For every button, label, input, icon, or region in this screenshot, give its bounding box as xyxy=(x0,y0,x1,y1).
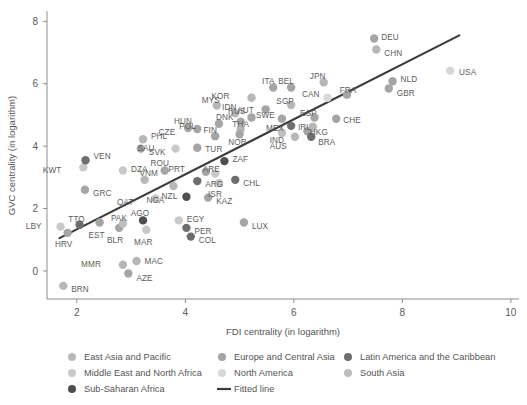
point-label-kwt: KWT xyxy=(43,166,62,175)
data-point-mac xyxy=(132,257,140,265)
data-point-arg xyxy=(193,177,201,185)
data-point-mmr xyxy=(119,260,127,268)
legend-label: Fitted line xyxy=(234,384,274,394)
data-point-sau xyxy=(171,144,179,152)
legend-dot-swatch xyxy=(68,353,76,361)
point-label-mmr: MMR xyxy=(81,260,101,269)
data-point-hrv xyxy=(63,229,71,237)
legend-item[interactable]: South Asia xyxy=(344,368,405,378)
point-label-bel: BEL xyxy=(278,77,294,86)
axes-layer: 24681002468 xyxy=(32,11,519,318)
point-label-sgp: SGP xyxy=(276,97,294,106)
point-label-hkg: HKG xyxy=(310,128,328,137)
point-label-tur: TUR xyxy=(205,145,222,154)
y-tick-label: 6 xyxy=(32,78,38,89)
data-point-tur xyxy=(193,144,201,152)
data-point-nor xyxy=(235,130,243,138)
point-label-esp: ESP xyxy=(300,109,317,118)
data-point-dza xyxy=(119,166,127,174)
point-label-ita: ITA xyxy=(262,77,275,86)
point-label-aus: AUS xyxy=(270,142,288,151)
point-label-hun: HUN xyxy=(174,117,192,126)
point-label-ago: AGO xyxy=(131,209,150,218)
point-label-swe: SWE xyxy=(256,111,275,120)
point-label-egy: EGY xyxy=(187,215,205,224)
data-point-nld xyxy=(388,77,396,85)
data-point-kwt xyxy=(79,163,87,171)
point-label-grc: GRC xyxy=(93,189,112,198)
point-label-per: PER xyxy=(194,227,211,236)
point-label-hrv: HRV xyxy=(55,240,73,249)
data-point-per xyxy=(182,224,190,232)
chart-legend: East Asia and PacificEurope and Central … xyxy=(68,352,495,394)
point-label-rou: ROU xyxy=(150,159,169,168)
point-label-qat: QAT xyxy=(117,198,134,207)
y-tick-label: 8 xyxy=(32,16,38,27)
point-label-bra: BRA xyxy=(318,138,336,147)
x-tick-label: 4 xyxy=(183,307,189,318)
point-label-blr: BLR xyxy=(107,236,123,245)
data-point-che xyxy=(332,114,340,122)
point-label-tha: THA xyxy=(232,120,249,129)
fitted-line-segment xyxy=(59,35,459,238)
y-tick-label: 4 xyxy=(32,141,38,152)
data-point-zaf xyxy=(220,157,228,165)
point-label-aze: AZE xyxy=(136,274,153,283)
point-labels-layer: BRNLBYHRVTTOKWTVENGRCESTBLRPAKMMRAZEMACD… xyxy=(26,33,477,294)
point-label-chl: CHL xyxy=(243,179,260,188)
point-label-cze: CZE xyxy=(159,128,176,137)
point-label-deu: DEU xyxy=(381,33,399,42)
data-point-nzl xyxy=(169,182,177,190)
scatter-plot-figure: 24681002468 BRNLBYHRVTTOKWTVENGRCESTBLRP… xyxy=(0,0,527,405)
point-label-pak: PAK xyxy=(111,214,128,223)
legend-item[interactable]: Europe and Central Asia xyxy=(218,352,336,362)
legend-dot-swatch xyxy=(218,353,226,361)
data-point-est xyxy=(95,218,103,226)
legend-dot-swatch xyxy=(344,369,352,377)
point-label-can: CAN xyxy=(302,90,320,99)
chart-canvas: 24681002468 BRNLBYHRVTTOKWTVENGRCESTBLRP… xyxy=(0,0,527,405)
legend-item[interactable]: Latin America and the Caribbean xyxy=(344,352,495,362)
data-point-chl xyxy=(231,176,239,184)
data-point-phl xyxy=(139,135,147,143)
legend-dot-swatch xyxy=(344,353,352,361)
point-label-sau: SAU xyxy=(137,144,154,153)
point-label-are: ARE xyxy=(203,165,221,174)
data-points-layer xyxy=(56,34,454,290)
x-tick-label: 6 xyxy=(291,307,297,318)
point-label-brn: BRN xyxy=(71,285,89,294)
point-label-fra: FRA xyxy=(340,86,357,95)
x-tick-label: 2 xyxy=(74,307,80,318)
data-point-egy xyxy=(175,216,183,224)
data-point-nga xyxy=(182,192,190,200)
point-label-isr: ISR xyxy=(208,190,222,199)
legend-item[interactable]: Middle East and North Africa xyxy=(68,368,203,378)
legend-label: North America xyxy=(234,368,294,378)
legend-dot-swatch xyxy=(68,369,76,377)
legend-dot-swatch xyxy=(218,369,226,377)
x-tick-label: 8 xyxy=(400,307,406,318)
data-point-chn xyxy=(372,45,380,53)
legend-item[interactable]: North America xyxy=(218,368,294,378)
point-label-jpn: JPN xyxy=(310,72,326,81)
legend-item[interactable]: East Asia and Pacific xyxy=(68,352,171,362)
point-label-usa: USA xyxy=(459,68,477,77)
data-point-mar xyxy=(142,226,150,234)
y-tick-label: 2 xyxy=(32,203,38,214)
point-label-kor: KOR xyxy=(211,92,229,101)
data-point-brn xyxy=(59,282,67,290)
point-label-gbr: GBR xyxy=(397,89,415,98)
point-label-vnm: VNM xyxy=(139,169,158,178)
point-label-rus: RUS xyxy=(228,107,246,116)
y-tick-label: 0 xyxy=(32,266,38,277)
legend-label: Latin America and the Caribbean xyxy=(360,352,495,362)
point-label-tto: TTO xyxy=(68,215,85,224)
legend-dot-swatch xyxy=(68,385,76,393)
data-point-can xyxy=(323,94,331,102)
legend-label: South Asia xyxy=(360,368,405,378)
data-point-deu xyxy=(370,34,378,42)
y-axis-title: GVC centrality (in logarithm) xyxy=(6,96,17,215)
legend-label: Middle East and North Africa xyxy=(84,368,203,378)
legend-item[interactable]: Sub-Saharan Africa xyxy=(68,384,165,394)
legend-item[interactable]: Fitted line xyxy=(217,384,274,394)
